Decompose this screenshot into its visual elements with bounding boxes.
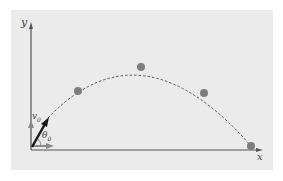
- angle-subscript: 0: [47, 135, 51, 142]
- y-axis-label: y: [21, 16, 27, 29]
- trajectory-point: [74, 87, 82, 95]
- trajectory-point: [247, 142, 255, 150]
- y-axis-arrow-icon: [29, 22, 33, 29]
- vx-arrow-icon: [46, 143, 54, 149]
- velocity-arrow-icon: [41, 117, 49, 127]
- velocity-label: v0: [32, 111, 41, 123]
- x-axis-label: x: [257, 151, 263, 162]
- angle-arc: [38, 139, 41, 146]
- trajectory-path: [48, 75, 251, 146]
- trajectory-point: [137, 63, 145, 71]
- velocity-subscript: 0: [37, 116, 41, 123]
- angle-label: θ0: [42, 130, 51, 142]
- trajectory-point: [200, 89, 208, 97]
- projectile-diagram: [0, 0, 283, 181]
